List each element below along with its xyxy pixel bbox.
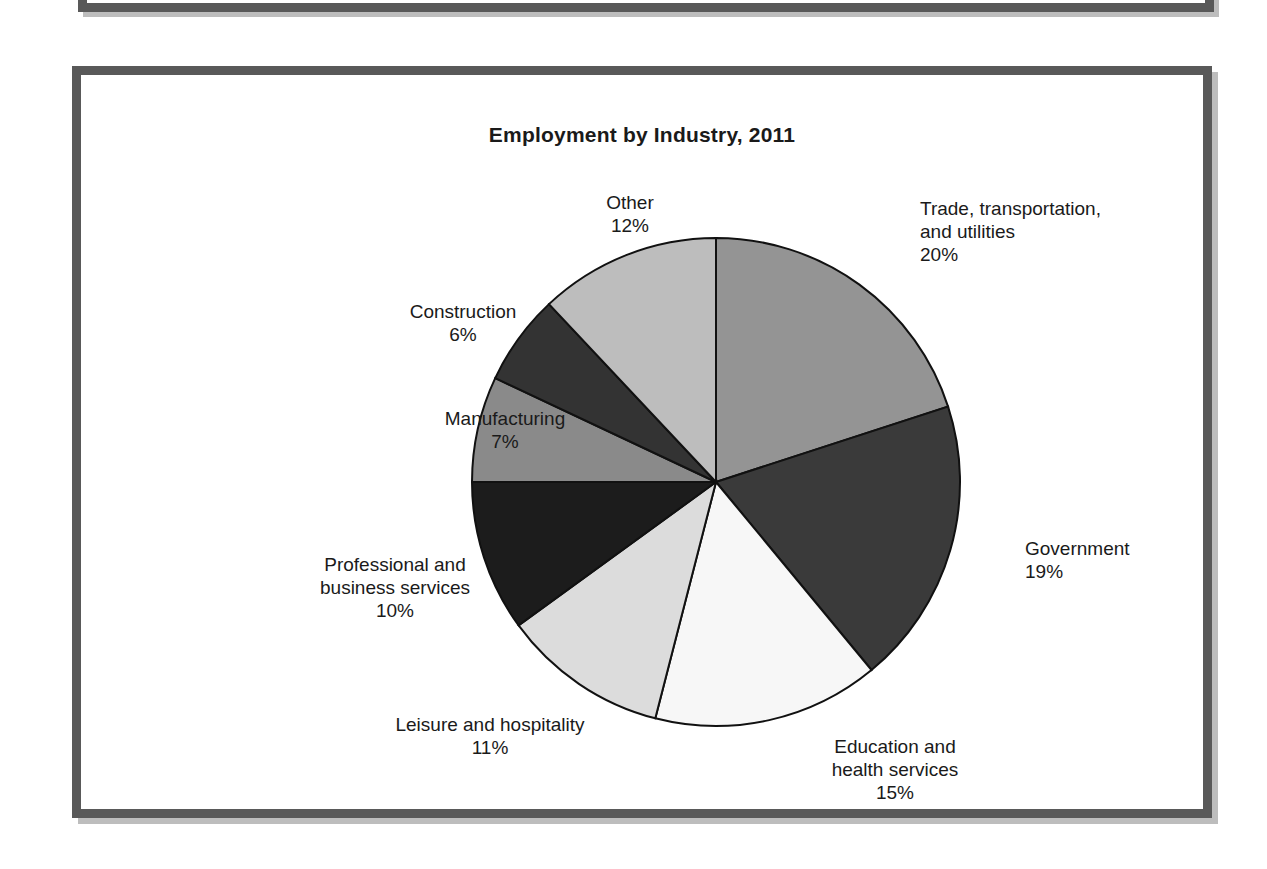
pie-label-leisure-hospitality: Leisure and hospitality 11% [350,713,630,759]
figure-inner-panel: Employment by Industry, 2011 Trade, tran… [95,87,1189,797]
previous-figure-frame-edge [78,0,1214,12]
pie-label-government: Government 19% [1025,537,1215,583]
pie-label-professional-business-services: Professional and business services 10% [285,553,505,623]
pie-label-other: Other 12% [550,191,710,237]
figure-frame: Employment by Industry, 2011 Trade, tran… [72,66,1212,818]
pie-label-trade-transportation-utilities: Trade, transportation, and utilities 20% [920,197,1160,267]
pie-label-education-health-services: Education and health services 15% [785,735,1005,805]
pie-label-manufacturing: Manufacturing 7% [405,407,605,453]
pie-chart: Trade, transportation, and utilities 20%… [95,87,1189,797]
pie-label-construction: Construction 6% [363,300,563,346]
